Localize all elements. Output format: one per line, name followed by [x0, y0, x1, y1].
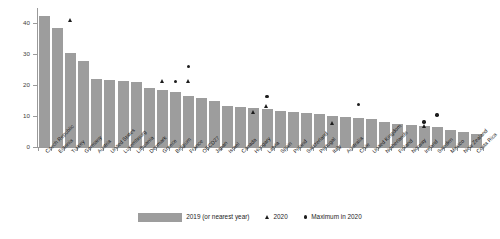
circle-marker	[174, 80, 177, 83]
legend-item-maximum: Maximum in 2020	[304, 213, 362, 221]
circle-marker	[435, 113, 438, 116]
y-tick-mark	[33, 85, 37, 86]
chart-legend: 2019 (or nearest year) 2020 Maximum in 2…	[0, 206, 500, 228]
circle-marker	[357, 103, 360, 106]
circle-marker	[187, 65, 190, 68]
y-tick-mark	[33, 147, 37, 148]
y-tick-mark	[33, 54, 37, 55]
legend-swatch-icon	[138, 213, 182, 222]
bar-chart: 010203040 Czech RepublicEstoniaTurkeyGer…	[0, 0, 500, 239]
triangle-marker-icon	[265, 215, 269, 219]
x-axis-labels: Czech RepublicEstoniaTurkeyGermanyAustri…	[0, 150, 500, 210]
legend-label-bar: 2019 (or nearest year)	[186, 213, 249, 221]
legend-item-bar: 2019 (or nearest year)	[138, 213, 249, 222]
plot-area	[38, 8, 483, 147]
legend-item-2020: 2020	[265, 213, 287, 221]
circle-marker-icon	[304, 215, 308, 219]
y-tick-label: 30	[8, 51, 30, 57]
y-tick-label: 20	[8, 82, 30, 88]
y-tick-label: 10	[8, 113, 30, 119]
marker-series-maximum-2020	[38, 8, 483, 147]
y-tick-label: 40	[8, 20, 30, 26]
legend-label-2020: 2020	[273, 213, 287, 221]
legend-label-maximum: Maximum in 2020	[311, 213, 361, 221]
circle-marker	[422, 120, 425, 123]
y-tick-mark	[33, 116, 37, 117]
y-tick-mark	[33, 23, 37, 24]
circle-marker	[265, 95, 268, 98]
